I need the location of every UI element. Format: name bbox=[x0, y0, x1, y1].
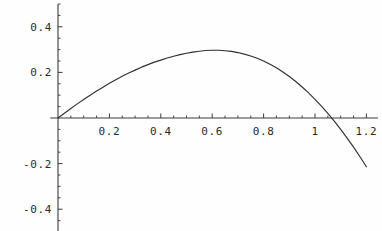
plot-canvas: 0.20.40.60.811.2 -0.4-0.20.20.4 bbox=[0, 0, 382, 231]
plot-graphics bbox=[0, 0, 382, 231]
y-tick-label: -0.2 bbox=[23, 158, 52, 169]
y-tick-label: -0.4 bbox=[23, 204, 52, 215]
x-tick-label: 1 bbox=[311, 126, 318, 137]
plot-background bbox=[0, 0, 382, 231]
x-tick-label: 0.2 bbox=[99, 126, 121, 137]
x-tick-label: 0.4 bbox=[150, 126, 172, 137]
y-tick-label: 0.2 bbox=[30, 67, 52, 78]
x-tick-label: 1.2 bbox=[356, 126, 378, 137]
x-tick-label: 0.8 bbox=[253, 126, 275, 137]
x-tick-label: 0.6 bbox=[201, 126, 223, 137]
y-tick-label: 0.4 bbox=[30, 21, 52, 32]
